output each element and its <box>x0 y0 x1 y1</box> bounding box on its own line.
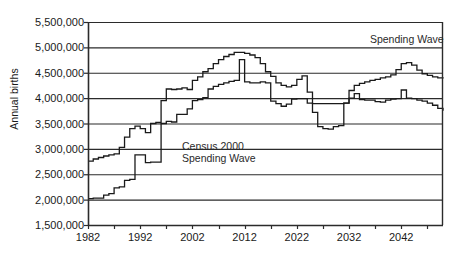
x-tick-label: 2042 <box>389 231 413 243</box>
y-axis-tick-marks <box>84 23 88 226</box>
x-tick-label: 2012 <box>232 231 256 243</box>
spending-wave-top-label: Spending Wave <box>370 33 444 45</box>
x-tick-label: 2032 <box>337 231 361 243</box>
data-series-group <box>88 52 443 198</box>
x-tick-label: 2002 <box>180 231 204 243</box>
gridlines <box>88 23 443 226</box>
chart-container: 5,500,0005,000,0004,500,0004,000,0003,50… <box>0 0 457 266</box>
x-tick-label: 2022 <box>285 231 309 243</box>
x-tick-label: 1992 <box>128 231 152 243</box>
spending-wave-label: Spending Wave <box>182 152 256 164</box>
x-tick-label: 1982 <box>76 231 100 243</box>
